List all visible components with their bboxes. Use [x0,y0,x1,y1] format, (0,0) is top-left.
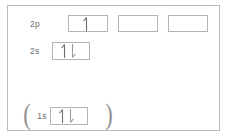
electrons-2s-1 [53,43,89,59]
spin-down-arrow-icon [67,108,74,123]
electrons-2p-3 [169,16,207,31]
spin-up-arrow-icon [83,16,90,31]
orbital-row-2p: 2p [30,15,208,32]
shell-label-2p: 2p [30,19,68,29]
electrons-2p-2 [119,16,157,31]
shell-label-2s: 2s [30,46,52,56]
orbital-box-2p-2[interactable] [118,15,158,32]
spin-up-arrow-icon [59,108,66,123]
electrons-2p-1 [69,16,107,31]
shell-label-1s: 1s [34,111,50,121]
orbital-row-1s: ( 1s ) [22,102,114,129]
orbital-box-2s-1[interactable] [52,42,90,60]
core-bracket-left: ( [23,99,31,129]
orbital-box-2p-3[interactable] [168,15,208,32]
orbital-row-2s: 2s [30,42,90,60]
core-bracket-right: ) [105,99,113,129]
electrons-1s-1 [51,108,87,124]
orbital-box-1s-1[interactable] [50,107,88,125]
spin-down-arrow-icon [69,44,76,59]
orbital-box-2p-1[interactable] [68,15,108,32]
orbital-diagram-frame: 2p 2s [7,5,220,131]
spin-up-arrow-icon [61,44,68,59]
